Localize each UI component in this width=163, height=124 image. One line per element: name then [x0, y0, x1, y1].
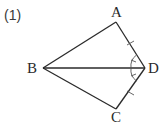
problem-number: (1) [4, 7, 21, 23]
segment-CD [116, 68, 145, 109]
point-label-D: D [148, 60, 159, 76]
geometry-figure: (1) A B C D [0, 0, 163, 124]
point-label-C: C [111, 109, 121, 124]
segment-AB [43, 22, 116, 68]
segment-BC [43, 68, 116, 109]
segment-DA [116, 22, 145, 68]
point-label-A: A [111, 4, 122, 20]
point-label-B: B [27, 60, 37, 76]
kite-shape [43, 22, 145, 109]
